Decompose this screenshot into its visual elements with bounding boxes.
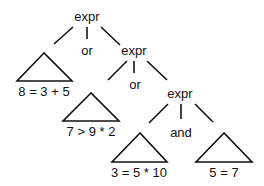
edge-root-to-subtree-1 [54,27,73,44]
subtree-label-1: 8 = 3 + 5 [18,84,69,99]
subtree-label-4: 5 = 7 [209,165,238,180]
subtree-triangle-4 [196,133,252,162]
node-expr-2: expr [121,43,147,58]
subtree-triangle-1 [17,53,72,81]
subtree-label-2: 7 > 9 * 2 [67,124,116,139]
subtree-triangle-2 [63,93,119,121]
edge-root-to-expr2 [101,27,120,45]
node-root-expr: expr [74,9,100,24]
edge-expr2-to-expr3 [147,61,167,80]
subtree-label-3: 3 = 5 * 10 [111,165,167,180]
node-or-2: or [129,77,141,92]
edge-expr2-to-subtree-2 [108,61,127,80]
edge-expr3-to-subtree-4 [195,104,213,122]
parse-tree-diagram: expr 8 = 3 + 5 or expr 7 > 9 * 2 or expr… [0,0,264,186]
node-and: and [170,125,192,140]
subtree-triangle-3 [112,133,167,162]
node-expr-3: expr [167,86,193,101]
edge-expr3-to-subtree-3 [149,104,168,123]
node-or-1: or [81,43,93,58]
